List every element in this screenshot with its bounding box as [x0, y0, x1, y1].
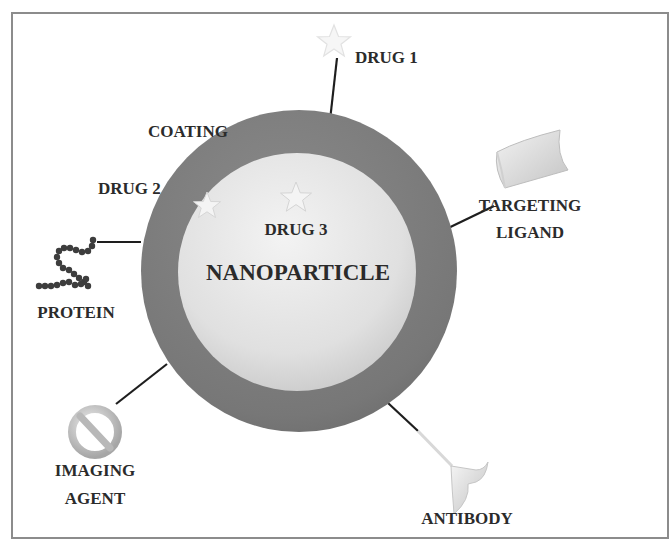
coating-label: COATING — [148, 122, 228, 141]
drug1-label: DRUG 1 — [355, 48, 418, 67]
imaging-agent-label-line1: IMAGING — [55, 461, 135, 480]
targeting-ligand-label-line1: TARGETING — [479, 196, 582, 215]
imaging-agent-label-line2: AGENT — [65, 489, 126, 508]
drug2-label: DRUG 2 — [98, 179, 161, 198]
targeting-ligand-label-line2: LIGAND — [496, 223, 564, 242]
drug3-label: DRUG 3 — [265, 220, 328, 239]
nanoparticle-label: NANOPARTICLE — [206, 260, 390, 285]
nanoparticle-diagram: DRUG 1 COATING DRUG 2 DRUG 3 NANOPARTICL… — [0, 0, 672, 551]
protein-label: PROTEIN — [37, 303, 115, 322]
antibody-label: ANTIBODY — [421, 509, 513, 528]
